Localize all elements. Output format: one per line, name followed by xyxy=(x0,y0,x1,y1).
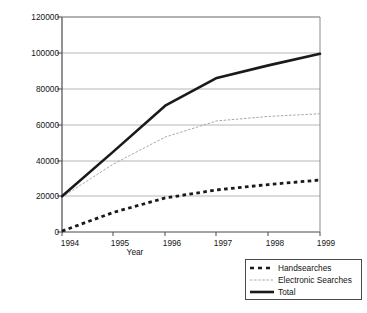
x-axis-label: Year xyxy=(0,247,270,257)
legend-item-total: Total xyxy=(246,286,361,298)
legend-label-handsearches: Handsearches xyxy=(278,262,332,274)
legend: Handsearches Electronic Searches Total xyxy=(245,259,362,300)
legend-swatch-dashed-icon xyxy=(246,262,278,274)
legend-item-handsearches: Handsearches xyxy=(246,262,361,274)
legend-swatch-dotted-icon xyxy=(246,274,278,286)
legend-swatch-solid-icon xyxy=(246,286,278,298)
legend-label-total: Total xyxy=(278,286,296,298)
x-tick-label-1999: 1999 xyxy=(306,238,346,248)
legend-label-electronic-searches: Electronic Searches xyxy=(278,274,352,286)
line-chart-figure: No of reports submitted xyxy=(0,0,367,313)
legend-item-electronic-searches: Electronic Searches xyxy=(246,274,361,286)
